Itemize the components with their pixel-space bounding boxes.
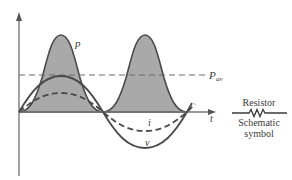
schematic-caption-line2: symbol xyxy=(244,128,274,139)
resistor-power-diagram: p P av i v t Resistor Schematic symbol xyxy=(0,0,292,180)
schematic-caption-line1: Schematic xyxy=(238,117,280,128)
power-hump-1 xyxy=(19,35,103,112)
average-power-label-sub: av xyxy=(216,75,224,83)
power-curve xyxy=(19,35,187,112)
resistor-legend: Resistor Schematic symbol xyxy=(232,97,287,139)
power-hump-2 xyxy=(103,35,187,112)
average-power-label-main: P xyxy=(208,69,216,81)
resistor-label: Resistor xyxy=(243,97,276,108)
resistor-symbol-icon xyxy=(232,110,287,117)
voltage-label: v xyxy=(145,137,150,148)
power-label: p xyxy=(74,37,81,49)
vertical-axis-arrow-icon xyxy=(16,12,22,21)
average-power-label: P av xyxy=(208,69,224,83)
current-label: i xyxy=(148,117,151,128)
time-axis-label: t xyxy=(210,113,213,124)
diagram-canvas: p P av i v t Resistor Schematic symbol xyxy=(0,0,292,180)
